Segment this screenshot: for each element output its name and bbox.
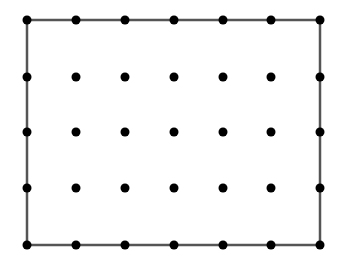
grid-dot [121,16,130,25]
grid-dot [121,73,130,82]
grid-dot [121,128,130,137]
grid-dot [267,128,276,137]
grid-dot [316,73,325,82]
grid-dot [72,184,81,193]
grid-dot [23,184,32,193]
grid-dot [219,16,228,25]
grid-dot [121,184,130,193]
grid-dot [170,184,179,193]
grid-dot [170,16,179,25]
grid-dot [170,128,179,137]
grid-dot [219,184,228,193]
grid-dot [316,241,325,250]
grid-dot [72,73,81,82]
grid-dot [219,128,228,137]
grid-dots [23,16,325,250]
grid-dot [267,184,276,193]
grid-dot [316,16,325,25]
grid-dot [72,241,81,250]
grid-dot [316,184,325,193]
grid-dot [219,73,228,82]
grid-dot [170,241,179,250]
grid-dot [316,128,325,137]
grid-dot [72,128,81,137]
grid-dot [267,16,276,25]
grid-dot [121,241,130,250]
grid-dot [72,16,81,25]
grid-dot [267,73,276,82]
grid-dot [23,73,32,82]
grid-dot [267,241,276,250]
grid-dot [23,16,32,25]
grid-dot [219,241,228,250]
grid-dot [23,241,32,250]
dot-grid-diagram [0,0,345,274]
grid-dot [23,128,32,137]
grid-dot [170,73,179,82]
